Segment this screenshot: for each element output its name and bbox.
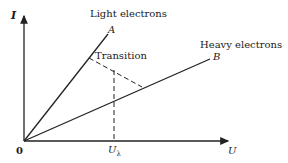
transition-label: Transition bbox=[95, 51, 147, 61]
diagram-canvas bbox=[0, 0, 288, 163]
line-b bbox=[24, 59, 210, 141]
origin-label: 0 bbox=[16, 146, 23, 156]
y-axis-label: I bbox=[11, 10, 16, 21]
line-b-label: B bbox=[213, 52, 220, 62]
u-lambda-label: Uλ bbox=[108, 145, 121, 158]
u-lambda-subscript: λ bbox=[116, 150, 120, 158]
heavy-electrons-caption: Heavy electrons bbox=[200, 40, 282, 50]
line-a-label: A bbox=[108, 25, 115, 35]
x-axis-label: U bbox=[228, 146, 236, 156]
transition-dashed-line bbox=[89, 58, 142, 87]
light-electrons-caption: Light electrons bbox=[90, 9, 167, 19]
